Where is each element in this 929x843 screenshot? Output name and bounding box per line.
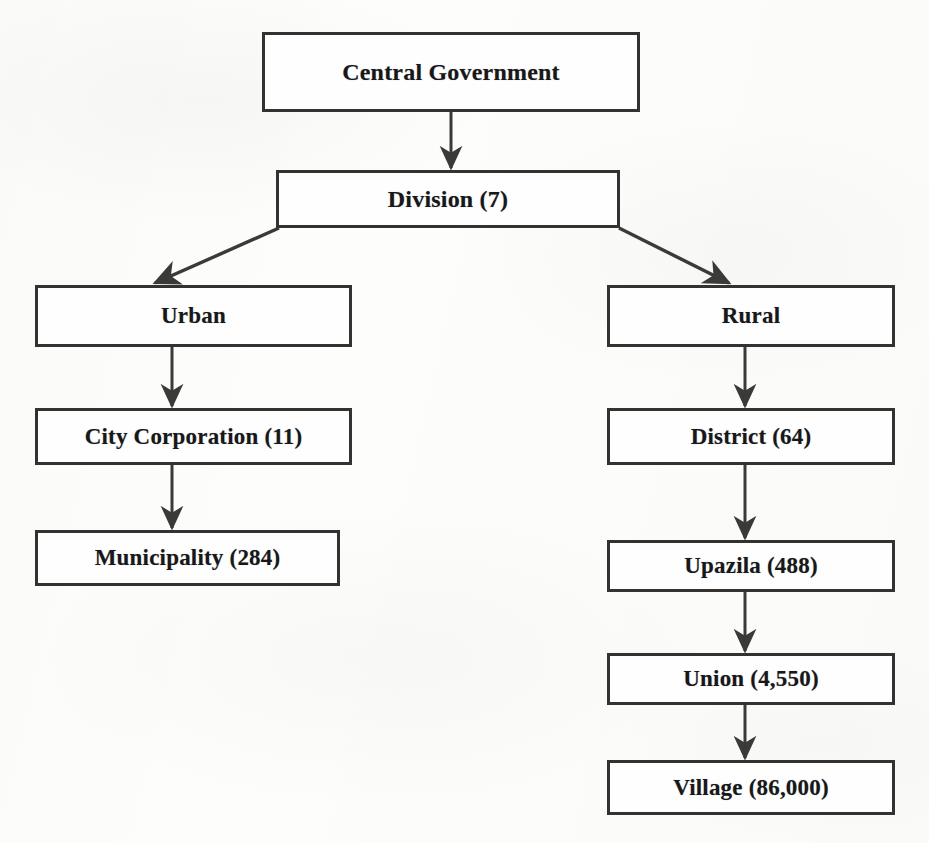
node-rural: Rural [607,285,895,347]
connector-division-to-urban [155,228,279,283]
hierarchy-diagram: Central Government Division (7) Urban Ru… [0,0,929,843]
node-district: District (64) [607,408,895,465]
node-village-label: Village (86,000) [673,775,829,801]
node-rural-label: Rural [722,303,781,329]
node-upazila: Upazila (488) [607,540,895,592]
node-city-corporation-label: City Corporation (11) [85,424,303,450]
node-urban-label: Urban [161,303,226,329]
node-municipality-label: Municipality (284) [95,545,281,571]
node-urban: Urban [35,285,352,347]
connector-division-to-rural [619,228,729,283]
node-central-government: Central Government [262,32,640,112]
node-division-label: Division (7) [388,186,508,213]
node-municipality: Municipality (284) [35,530,340,586]
node-union-label: Union (4,550) [683,666,819,692]
node-city-corporation: City Corporation (11) [35,408,352,465]
node-union: Union (4,550) [607,653,895,705]
node-central-government-label: Central Government [342,59,560,86]
node-district-label: District (64) [691,424,812,450]
node-upazila-label: Upazila (488) [684,553,818,579]
node-division: Division (7) [276,170,620,228]
node-village: Village (86,000) [607,760,895,815]
